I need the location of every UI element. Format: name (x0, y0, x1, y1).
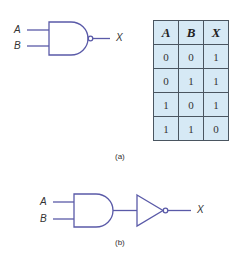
output-label-x-b: X (197, 204, 204, 215)
cell: 1 (204, 69, 229, 93)
cell: 0 (154, 45, 179, 69)
input-label-a-b: A (40, 196, 47, 207)
cell: 0 (204, 117, 229, 141)
cell: 0 (179, 93, 204, 117)
input-label-a: A (14, 24, 21, 35)
header-x: X (204, 21, 229, 45)
cell: 0 (179, 45, 204, 69)
cell: 1 (179, 117, 204, 141)
cell: 1 (204, 45, 229, 69)
table-row: 1 0 1 (154, 93, 229, 117)
truth-table: A B X 0 0 1 0 1 1 1 0 1 1 1 0 (153, 20, 229, 141)
table-row: 1 1 0 (154, 117, 229, 141)
table-row: 0 0 1 (154, 45, 229, 69)
input-label-b: B (14, 40, 21, 51)
cell: 1 (154, 117, 179, 141)
caption-b: (b) (115, 238, 125, 247)
caption-a: (a) (115, 152, 125, 161)
cell: 1 (179, 69, 204, 93)
output-label-x: X (116, 32, 123, 43)
nand-gate-a (27, 22, 110, 55)
header-a: A (154, 21, 179, 45)
table-row: 0 1 1 (154, 69, 229, 93)
cell: 0 (154, 69, 179, 93)
header-b: B (179, 21, 204, 45)
cell: 1 (154, 93, 179, 117)
and-not-gates-b (53, 194, 191, 227)
cell: 1 (204, 93, 229, 117)
input-label-b-b: B (40, 213, 47, 224)
table-header-row: A B X (154, 21, 229, 45)
